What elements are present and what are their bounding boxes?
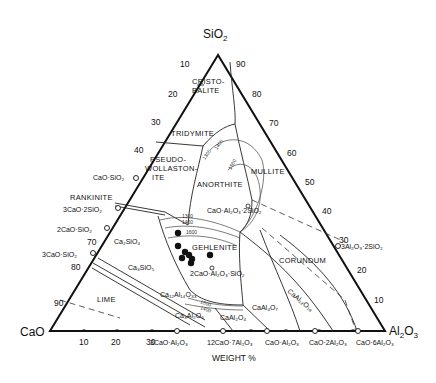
svg-text:CORUNDUM: CORUNDUM [279, 256, 326, 265]
svg-text:CRISTO-: CRISTO- [192, 77, 225, 86]
svg-text:2CaO·SiO₂: 2CaO·SiO₂ [57, 226, 92, 233]
svg-text:10: 10 [374, 295, 384, 305]
svg-text:12CaO·7Al₂O₃: 12CaO·7Al₂O₃ [207, 339, 253, 346]
svg-text:MULLITE: MULLITE [251, 167, 285, 176]
svg-text:Ca₁₂Al₁₄O₃₃: Ca₁₂Al₁₄O₃₃ [160, 291, 197, 298]
svg-text:3Al₂O₃·2SiO₂: 3Al₂O₃·2SiO₂ [341, 243, 383, 250]
svg-text:CaO·Al₂O₃·2SiO₂: CaO·Al₂O₃·2SiO₂ [207, 207, 262, 214]
svg-text:1400: 1400 [182, 219, 193, 225]
vertex-al2o3-label: Al2O3 [389, 324, 418, 340]
svg-text:30: 30 [151, 117, 161, 127]
svg-text:1600: 1600 [186, 229, 197, 235]
svg-text:80: 80 [252, 89, 262, 99]
vertex-cao-label: CaO [20, 325, 45, 339]
svg-text:1400: 1400 [213, 138, 224, 151]
svg-text:TRIDYMITE: TRIDYMITE [171, 129, 214, 138]
svg-text:40: 40 [322, 206, 332, 216]
svg-text:GEHLENITE: GEHLENITE [192, 243, 237, 252]
svg-text:CaAl₂O₄: CaAl₂O₄ [220, 314, 246, 321]
svg-text:CaO·SiO₂: CaO·SiO₂ [93, 174, 124, 181]
ternary-phase-diagram: SiO2 CaO Al2O3 10 20 30 40 70 80 90 90 8… [0, 0, 436, 383]
svg-text:Ca₂SiO₄: Ca₂SiO₄ [114, 238, 140, 245]
svg-text:1500: 1500 [227, 158, 238, 171]
svg-text:CaAl₄O₇: CaAl₄O₇ [252, 304, 278, 311]
svg-text:ITE: ITE [152, 173, 165, 182]
svg-text:Ca₃SiO₅: Ca₃SiO₅ [128, 264, 154, 271]
svg-text:BALITE: BALITE [192, 86, 220, 95]
svg-text:3CaO·Al₂O₃: 3CaO·Al₂O₃ [150, 339, 188, 346]
svg-text:PSEUDO-: PSEUDO- [150, 155, 186, 164]
svg-text:10: 10 [180, 59, 190, 69]
svg-text:10: 10 [79, 337, 89, 347]
svg-text:CaO·Al₂O₃: CaO·Al₂O₃ [265, 339, 299, 346]
svg-text:80: 80 [71, 262, 81, 272]
svg-text:CaO·2Al₂O₃: CaO·2Al₂O₃ [309, 339, 347, 346]
svg-text:RANKINITE: RANKINITE [70, 193, 113, 202]
svg-text:70: 70 [269, 118, 279, 128]
svg-text:90: 90 [54, 298, 64, 308]
svg-text:3CaO·SiO₂: 3CaO·SiO₂ [42, 251, 77, 258]
svg-text:50: 50 [305, 177, 315, 187]
svg-text:60: 60 [287, 148, 297, 158]
svg-text:70: 70 [87, 237, 97, 247]
units-label: WEIGHT % [212, 353, 256, 363]
svg-text:20: 20 [111, 337, 121, 347]
svg-text:3CaO·2SiO₂: 3CaO·2SiO₂ [63, 206, 102, 213]
svg-text:20: 20 [168, 89, 178, 99]
svg-text:20: 20 [357, 265, 367, 275]
vertex-sio2-label: SiO2 [203, 27, 228, 43]
svg-text:2CaO·Al₂O₃·SiO₂: 2CaO·Al₂O₃·SiO₂ [190, 270, 245, 277]
svg-text:Ca₃Al₂O₆: Ca₃Al₂O₆ [175, 312, 204, 319]
right-edge-ticks: 90 80 70 60 50 40 30 20 10 [236, 59, 384, 305]
svg-text:CaO·6Al₂O₃: CaO·6Al₂O₃ [356, 339, 394, 346]
svg-text:90: 90 [236, 59, 246, 69]
svg-text:40: 40 [134, 145, 144, 155]
svg-text:ANORTHITE: ANORTHITE [197, 180, 243, 189]
svg-text:WOLLASTON-: WOLLASTON- [145, 164, 198, 173]
svg-text:LIME: LIME [97, 295, 116, 304]
